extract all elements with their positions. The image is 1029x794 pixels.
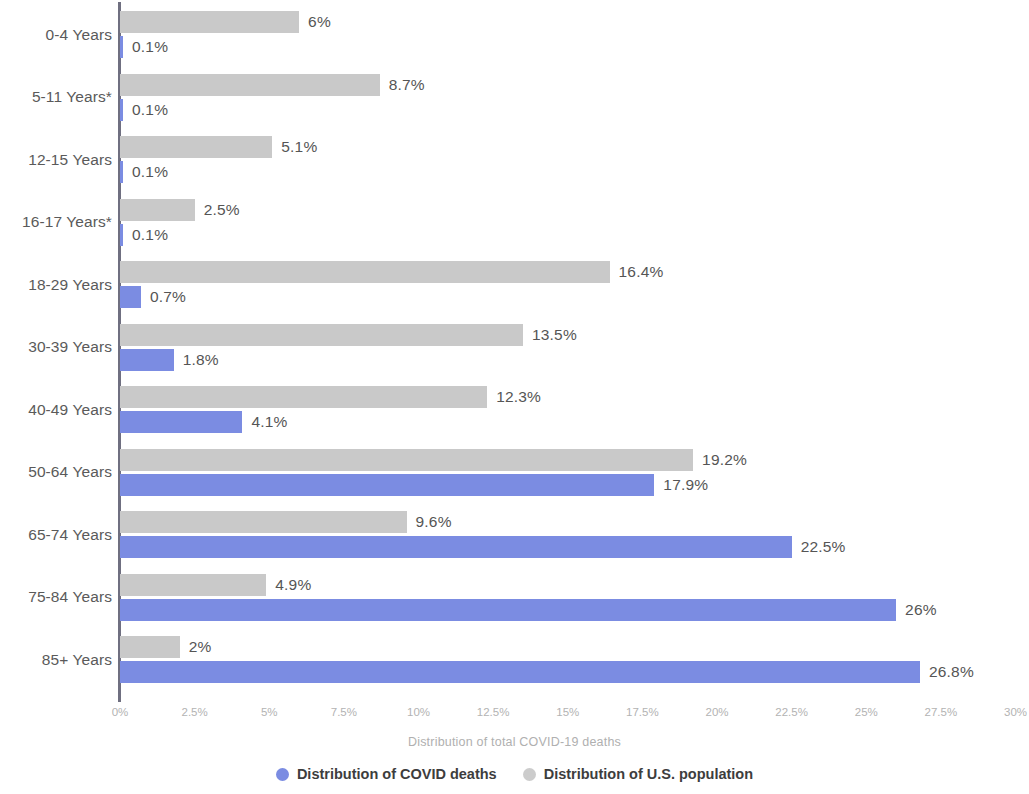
bar-fill-population xyxy=(120,261,610,283)
bar-fill-population xyxy=(120,511,407,533)
legend-item-label: Distribution of U.S. population xyxy=(544,766,753,782)
bar-fill-population xyxy=(120,636,180,658)
bar-fill-population xyxy=(120,136,272,158)
x-axis-tick-label: 20% xyxy=(705,706,728,718)
bar-value-label-population: 9.6% xyxy=(416,513,452,531)
bar-fill-covid-deaths xyxy=(120,99,123,121)
legend-item[interactable]: Distribution of U.S. population xyxy=(523,766,753,782)
bar-value-label-population: 13.5% xyxy=(532,326,577,344)
bar-value-label-covid-deaths: 22.5% xyxy=(801,538,846,556)
x-axis-title: Distribution of total COVID-19 deaths xyxy=(0,735,1029,749)
y-axis-label: 0-4 Years xyxy=(2,26,112,44)
bar-value-label-covid-deaths: 0.1% xyxy=(132,38,168,56)
bar-value-label-covid-deaths: 17.9% xyxy=(663,476,708,494)
x-axis-tick-label: 12.5% xyxy=(477,706,510,718)
bar-value-label-covid-deaths: 26.8% xyxy=(929,663,974,681)
bar-fill-covid-deaths xyxy=(120,536,792,558)
y-axis-label: 12-15 Years xyxy=(2,151,112,169)
legend-swatch-deaths-icon xyxy=(276,768,289,781)
bar-value-label-population: 2% xyxy=(189,638,212,656)
bar-fill-covid-deaths xyxy=(120,286,141,308)
y-axis-label: 40-49 Years xyxy=(2,401,112,419)
bar-fill-covid-deaths xyxy=(120,599,896,621)
bar-fill-population xyxy=(120,74,380,96)
bar-value-label-population: 19.2% xyxy=(702,451,747,469)
y-axis-label: 18-29 Years xyxy=(2,276,112,294)
y-axis-category-labels: 0-4 Years5-11 Years*12-15 Years16-17 Yea… xyxy=(0,0,112,794)
x-axis-tick-label: 15% xyxy=(556,706,579,718)
bar-value-label-covid-deaths: 0.1% xyxy=(132,101,168,119)
bar-value-label-covid-deaths: 26% xyxy=(905,601,937,619)
x-axis-tick-label: 22.5% xyxy=(775,706,808,718)
x-axis-tick-label: 5% xyxy=(261,706,278,718)
bar-value-label-population: 16.4% xyxy=(619,263,664,281)
bar-value-label-population: 4.9% xyxy=(275,576,311,594)
bar-fill-population xyxy=(120,574,266,596)
bar-fill-covid-deaths xyxy=(120,36,123,58)
bar-fill-population xyxy=(120,386,487,408)
bar-value-label-population: 2.5% xyxy=(204,201,240,219)
bar-value-label-population: 8.7% xyxy=(389,76,425,94)
bar-fill-covid-deaths xyxy=(120,349,174,371)
y-axis-label: 75-84 Years xyxy=(2,588,112,606)
legend-item[interactable]: Distribution of COVID deaths xyxy=(276,766,497,782)
x-axis-tick-label: 10% xyxy=(407,706,430,718)
bar-fill-population xyxy=(120,324,523,346)
y-axis-label: 5-11 Years* xyxy=(2,88,112,106)
x-axis-tick-label: 25% xyxy=(855,706,878,718)
y-axis-label: 85+ Years xyxy=(2,651,112,669)
bar-value-label-covid-deaths: 0.7% xyxy=(150,288,186,306)
x-axis-tick-label: 7.5% xyxy=(331,706,357,718)
bar-value-label-covid-deaths: 4.1% xyxy=(251,413,287,431)
bar-value-label-covid-deaths: 0.1% xyxy=(132,163,168,181)
legend-swatch-pop-icon xyxy=(523,768,536,781)
x-axis-tick-label: 27.5% xyxy=(925,706,958,718)
x-axis-tick-labels: 0%2.5%5%7.5%10%12.5%15%17.5%20%22.5%25%2… xyxy=(120,706,1018,728)
y-axis-label: 50-64 Years xyxy=(2,463,112,481)
bar-fill-covid-deaths xyxy=(120,161,123,183)
bar-fill-population xyxy=(120,449,693,471)
bar-value-label-population: 6% xyxy=(308,13,331,31)
bar-value-label-covid-deaths: 1.8% xyxy=(183,351,219,369)
bar-fill-covid-deaths xyxy=(120,474,654,496)
y-axis-label: 30-39 Years xyxy=(2,338,112,356)
x-axis-tick-label: 17.5% xyxy=(626,706,659,718)
bar-fill-covid-deaths xyxy=(120,661,920,683)
bar-fill-population xyxy=(120,199,195,221)
chart-legend: Distribution of COVID deathsDistribution… xyxy=(0,766,1029,782)
x-axis-tick-label: 0% xyxy=(112,706,129,718)
y-axis-label: 65-74 Years xyxy=(2,526,112,544)
bar-value-label-covid-deaths: 0.1% xyxy=(132,226,168,244)
x-axis-tick-label: 30% xyxy=(1004,706,1027,718)
bar-value-label-population: 5.1% xyxy=(281,138,317,156)
bar-fill-population xyxy=(120,11,299,33)
y-axis-label: 16-17 Years* xyxy=(2,213,112,231)
plot-area: 6%0.1%8.7%0.1%5.1%0.1%2.5%0.1%16.4%0.7%1… xyxy=(120,5,1018,700)
x-axis-tick-label: 2.5% xyxy=(182,706,208,718)
bar-fill-covid-deaths xyxy=(120,411,242,433)
legend-item-label: Distribution of COVID deaths xyxy=(297,766,497,782)
covid-deaths-vs-population-chart: 0-4 Years5-11 Years*12-15 Years16-17 Yea… xyxy=(0,0,1029,794)
bar-value-label-population: 12.3% xyxy=(496,388,541,406)
bar-fill-covid-deaths xyxy=(120,224,123,246)
